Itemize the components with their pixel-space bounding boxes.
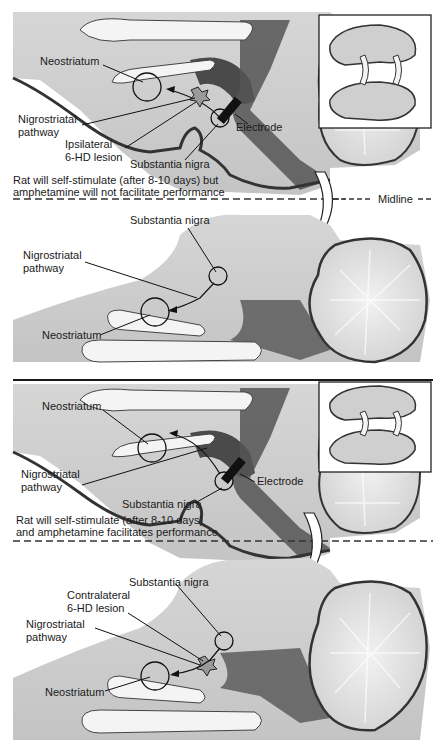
label-lesion-line2: 6-HD lesion [65,151,122,164]
label-lower-nigrostriatal-line2: pathway [23,262,64,275]
orientation-inset [319,382,431,472]
lower-brain-section [13,558,430,740]
label-lower-nigrostriatal-line2: pathway [26,631,67,644]
label-lower-nigrostriatal-line1: Nigrostriatal [23,249,82,262]
label-lower-lesion-line1: Contralateral [67,589,130,602]
label-lesion-line1: Ipsilateral [65,138,112,151]
top-panel-ipsilateral-lesion: Neostriatum Nigrostriatal pathway Ipsila… [0,0,446,378]
caption-line2: and amphetamine facilitates performance [16,526,218,539]
label-neostriatum: Neostriatum [42,400,101,413]
label-lower-neostriatum: Neostriatum [45,686,104,699]
label-nigrostriatal-pathway-line1: Nigrostriatal [21,468,80,481]
lower-cerebellum [309,239,426,362]
label-nigrostriatal-pathway-line2: pathway [21,481,62,494]
orientation-inset [319,15,431,128]
caption-line2: amphetamine will not facilitate performa… [13,186,225,199]
label-substantia-nigra: Substantia nigra [122,498,202,511]
bottom-panel-contralateral-lesion: Neostriatum Nigrostriatal pathway Substa… [0,378,446,749]
label-electrode: Electrode [236,121,282,134]
label-substantia-nigra: Substantia nigra [130,158,210,171]
label-lower-neostriatum: Neostriatum [42,329,101,342]
label-lower-nigrostriatal-line1: Nigrostriatal [26,618,85,631]
label-nigrostriatal-pathway-line1: Nigrostriatal [18,113,77,126]
label-lower-substantia-nigra: Substantia nigra [130,214,210,227]
label-neostriatum: Neostriatum [40,55,99,68]
lateral-ventricle [80,19,253,42]
label-lower-lesion-line2: 6-HD lesion [67,602,124,615]
label-electrode: Electrode [257,475,303,488]
label-lower-substantia-nigra: Substantia nigra [129,576,209,589]
label-nigrostriatal-pathway-line2: pathway [18,126,59,139]
label-midline: Midline [376,193,415,206]
